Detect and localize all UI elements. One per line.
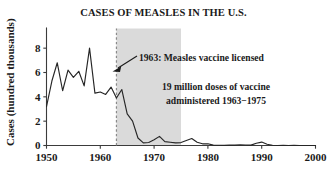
x-tick-label-1960: 1960 bbox=[89, 151, 112, 163]
y-tick-label-0: 0 bbox=[35, 139, 41, 151]
x-tick-label-2000: 2000 bbox=[305, 151, 327, 163]
annotation-vaccine-licensed: 1963: Measles vaccine licensed bbox=[139, 52, 265, 63]
annotation-doses-line-2: administered 1963−1975 bbox=[166, 95, 266, 106]
y-axis-label-text: Cases (hundred thousands) bbox=[4, 18, 17, 146]
measles-chart-figure: CASES OF MEASLES IN THE U.S. 19501960197… bbox=[0, 0, 327, 178]
y-tick-label-6: 6 bbox=[35, 66, 41, 78]
x-tick-label-1980: 1980 bbox=[197, 151, 220, 163]
y-tick-label-4: 4 bbox=[35, 91, 41, 103]
y-axis-label: Cases (hundred thousands) bbox=[4, 18, 17, 146]
chart-title: CASES OF MEASLES IN THE U.S. bbox=[80, 7, 247, 18]
y-tick-label-8: 8 bbox=[35, 42, 41, 54]
x-tick-label-1970: 1970 bbox=[143, 151, 166, 163]
y-tick-label-2: 2 bbox=[35, 115, 41, 127]
x-tick-label-1950: 1950 bbox=[36, 151, 59, 163]
annotation-doses-line-1: 19 million doses of vaccine bbox=[162, 81, 271, 92]
x-tick-label-1990: 1990 bbox=[251, 151, 274, 163]
chart-canvas: CASES OF MEASLES IN THE U.S. 19501960197… bbox=[0, 0, 327, 178]
